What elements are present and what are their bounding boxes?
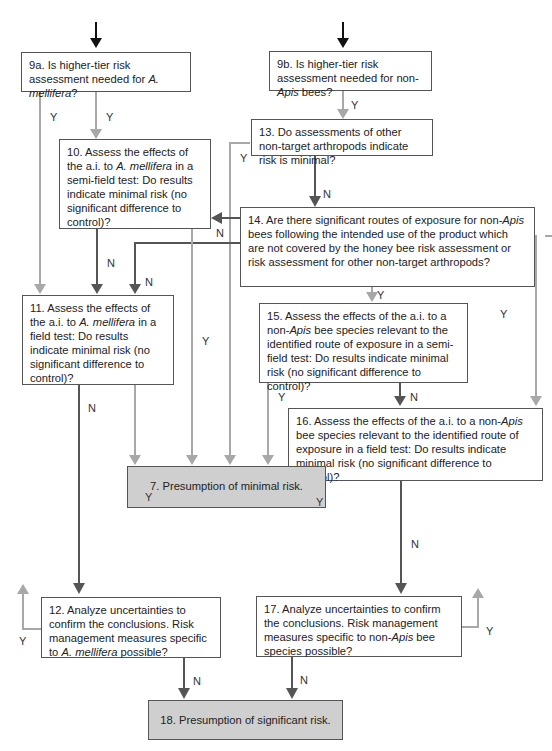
label-11-n: N xyxy=(88,402,96,414)
label-13-n: N xyxy=(323,188,331,200)
label-15-n: N xyxy=(410,391,418,403)
label-9a-y-left: Y xyxy=(50,111,57,123)
label-13-y: Y xyxy=(240,152,247,164)
label-17-n: N xyxy=(300,674,308,686)
box-7-minimal-risk: 7. Presumption of minimal risk. xyxy=(127,466,326,508)
label-9a-y: Y xyxy=(106,111,113,123)
label-17-y: Y xyxy=(486,625,493,637)
label-14-n: N xyxy=(216,227,224,239)
box-12: 12. Analyze uncertainties to confirm the… xyxy=(41,597,221,658)
box-14: 14. Are there significant routes of expo… xyxy=(240,207,535,287)
box-17: 17. Analyze uncertainties to confirm the… xyxy=(256,596,462,657)
label-16-n: N xyxy=(411,538,419,550)
box-9b: 9b. Is higher-tier risk assessment neede… xyxy=(269,51,432,91)
label-16-y: Y xyxy=(316,496,323,508)
box-10: 10. Assess the effects of the a.i. to A.… xyxy=(59,139,211,229)
label-14-y-15: Y xyxy=(377,289,384,301)
box-16: 16. Assess the effects of the a.i. to a … xyxy=(288,408,543,481)
label-10-n: N xyxy=(107,257,115,269)
label-15-y: Y xyxy=(278,391,285,403)
label-14-y-16: Y xyxy=(500,308,507,320)
box-15: 15. Assess the effects of the a.i. to a … xyxy=(259,303,468,383)
label-12-n: N xyxy=(193,675,201,687)
box-11: 11. Assess the effects of the a.i. to A.… xyxy=(22,295,174,385)
label-10-y: Y xyxy=(202,335,209,347)
box-9a: 9a. Is higher-tier risk assessment neede… xyxy=(21,52,191,92)
label-11-y: Y xyxy=(145,491,152,503)
label-12-y: Y xyxy=(19,635,26,647)
label-9b-y: Y xyxy=(351,99,358,111)
label-14-n-11: N xyxy=(145,276,153,288)
box-18-significant-risk: 18. Presumption of significant risk. xyxy=(148,700,343,740)
box-13: 13. Do assessments of other non-target a… xyxy=(251,119,433,156)
